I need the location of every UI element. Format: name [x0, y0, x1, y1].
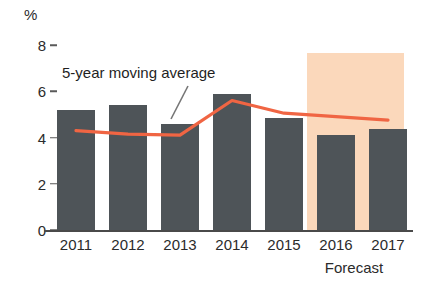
bar-2017: [369, 129, 407, 230]
x-axis-tick-label-2017: 2017: [362, 236, 414, 253]
moving-average-annotation-label: 5-year moving average: [62, 64, 215, 81]
x-axis-tick-label-2012: 2012: [102, 236, 154, 253]
annotation-leader-line: [171, 86, 188, 119]
y-axis-tick-label: 0: [0, 222, 46, 239]
forecast-caption-label: Forecast: [304, 259, 404, 276]
bar-2011: [57, 110, 95, 230]
y-axis-tick-mark: [50, 44, 57, 46]
y-axis-tick-label: 2: [0, 175, 46, 192]
y-axis-unit-label: %: [24, 6, 38, 23]
bar-2013: [161, 124, 199, 230]
bar-2015: [265, 118, 303, 230]
bar-2014: [213, 94, 251, 230]
y-axis-tick-label: 6: [0, 83, 46, 100]
x-axis-tick-label-2011: 2011: [50, 236, 102, 253]
x-axis-tick-label-2016: 2016: [310, 236, 362, 253]
chart-container: % 02468 2011201220132014201520162017 5-y…: [0, 0, 421, 285]
y-axis-tick-mark: [50, 137, 57, 139]
y-axis-tick-label: 8: [0, 37, 46, 54]
x-axis-tick-label-2015: 2015: [258, 236, 310, 253]
x-axis-line: [44, 230, 413, 232]
y-axis-tick-mark: [50, 91, 57, 93]
y-axis-tick-label: 4: [0, 129, 46, 146]
x-axis-tick-label-2014: 2014: [206, 236, 258, 253]
bar-2012: [109, 105, 147, 230]
bar-2016: [317, 135, 355, 230]
y-axis-tick-mark: [50, 183, 57, 185]
x-axis-tick-label-2013: 2013: [154, 236, 206, 253]
